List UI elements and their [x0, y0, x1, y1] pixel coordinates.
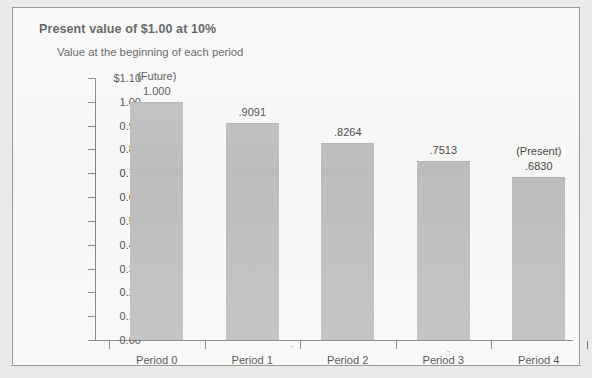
bar — [512, 177, 565, 340]
x-axis-category-label: Period 2 — [327, 354, 369, 366]
x-axis-category-label: Period 1 — [231, 354, 273, 366]
bar — [417, 161, 470, 340]
plot-area: $1.101.000.900.800.700.600.500.400.300.2… — [95, 78, 573, 340]
x-axis-line — [95, 340, 573, 341]
bar-annotation: (Future) — [137, 70, 176, 82]
scan-speck — [447, 351, 450, 352]
bar-value-label: .6830 — [525, 160, 553, 172]
x-axis-category-label: Period 3 — [422, 354, 464, 366]
bar — [130, 102, 183, 340]
scan-speck — [291, 346, 294, 347]
x-axis-tick — [205, 341, 206, 349]
x-axis-tick — [300, 341, 301, 349]
bar-value-label: .7513 — [429, 144, 457, 156]
x-axis-tick — [587, 341, 588, 349]
y-axis-tick — [88, 340, 95, 341]
bar-annotation: (Present) — [516, 145, 561, 157]
x-axis-tick — [491, 341, 492, 349]
figure-canvas: Present value of $1.00 at 10% Value at t… — [0, 0, 592, 378]
bar-value-label: .9091 — [238, 106, 266, 118]
x-axis-tick — [109, 341, 110, 349]
bar-value-label: .8264 — [334, 126, 362, 138]
chart-frame: Present value of $1.00 at 10% Value at t… — [12, 7, 580, 366]
chart-title: Present value of $1.00 at 10% — [39, 22, 216, 36]
bar — [226, 123, 279, 340]
bar-value-label: 1.000 — [143, 85, 171, 97]
bar — [321, 143, 374, 340]
x-axis-category-label: Period 0 — [136, 354, 178, 366]
x-axis-tick — [396, 341, 397, 349]
chart-subtitle: Value at the beginning of each period — [57, 46, 243, 58]
x-axis-category-label: Period 4 — [518, 354, 560, 366]
